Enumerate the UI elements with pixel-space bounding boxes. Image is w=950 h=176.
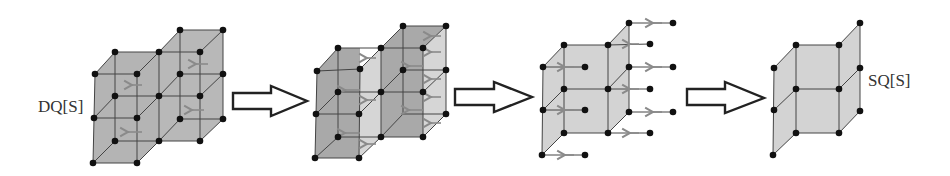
stage-4-lattice (770, 20, 864, 159)
stage-2-lattice (312, 23, 450, 162)
transition-arrow-2 (455, 82, 532, 112)
stage-1-lattice (90, 27, 227, 167)
label-dq-s: DQ[S] (38, 97, 83, 116)
stage-3-lattice (539, 20, 677, 159)
diagram-canvas: DQ[S] (0, 0, 950, 176)
transition-arrow-3 (687, 82, 764, 113)
transition-arrow-1 (233, 86, 307, 116)
label-sq-s: SQ[S] (868, 71, 911, 90)
